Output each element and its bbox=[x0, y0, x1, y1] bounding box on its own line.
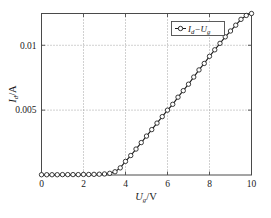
y-axis-title: Id/A bbox=[7, 85, 19, 104]
data-point-marker bbox=[249, 11, 253, 15]
data-point-marker bbox=[76, 172, 80, 176]
data-point-marker bbox=[239, 17, 243, 21]
x-axis-title: Ug/V bbox=[135, 191, 157, 203]
svg-text:Id/A: Id/A bbox=[7, 85, 19, 104]
legend-circle-marker-icon bbox=[178, 26, 182, 30]
data-point-marker bbox=[144, 134, 148, 138]
chart-figure: 0246810 0.0050.01 Ug/V Id/A Id−Ug bbox=[0, 0, 271, 218]
data-point-marker bbox=[192, 75, 196, 79]
data-point-marker bbox=[60, 172, 64, 176]
transfer-characteristic-plot: 0246810 0.0050.01 Ug/V Id/A Id−Ug bbox=[0, 0, 271, 218]
data-point-marker bbox=[202, 61, 206, 65]
data-point-marker bbox=[155, 121, 159, 125]
data-point-marker bbox=[160, 114, 164, 118]
data-point-marker bbox=[113, 170, 117, 174]
data-point-marker bbox=[118, 166, 122, 170]
data-point-marker bbox=[207, 54, 211, 58]
data-point-marker bbox=[123, 159, 127, 163]
legend-label-sub-2: g bbox=[207, 28, 211, 35]
x-tick-label: 2 bbox=[81, 179, 86, 189]
x-axis-title-unit: /V bbox=[146, 191, 157, 202]
data-point-marker bbox=[234, 23, 238, 27]
data-point-marker bbox=[45, 173, 49, 177]
data-point-marker bbox=[165, 108, 169, 112]
data-point-marker bbox=[81, 172, 85, 176]
data-point-marker bbox=[97, 172, 101, 176]
data-point-marker bbox=[39, 173, 43, 177]
x-tick-label: 6 bbox=[165, 179, 170, 189]
data-point-marker bbox=[244, 13, 248, 17]
y-tick-label: 0.005 bbox=[15, 105, 37, 115]
data-point-marker bbox=[218, 41, 222, 45]
x-tick-label: 0 bbox=[39, 179, 44, 189]
data-point-marker bbox=[55, 173, 59, 177]
data-point-marker bbox=[181, 88, 185, 92]
data-point-marker bbox=[134, 147, 138, 151]
x-tick-label: 4 bbox=[123, 179, 128, 189]
data-point-marker bbox=[129, 153, 133, 157]
data-point-marker bbox=[66, 172, 70, 176]
y-tick-label: 0.01 bbox=[20, 41, 37, 51]
data-point-marker bbox=[171, 102, 175, 106]
data-point-marker bbox=[228, 29, 232, 33]
data-point-marker bbox=[50, 173, 54, 177]
svg-text:Ug/V: Ug/V bbox=[135, 191, 157, 203]
data-point-marker bbox=[108, 171, 112, 175]
data-point-marker bbox=[87, 172, 91, 176]
data-point-marker bbox=[139, 140, 143, 144]
y-axis-title-unit: /A bbox=[7, 85, 18, 96]
data-point-marker bbox=[92, 172, 96, 176]
data-point-marker bbox=[213, 48, 217, 52]
data-point-marker bbox=[150, 127, 154, 131]
data-point-marker bbox=[197, 68, 201, 72]
legend[interactable]: Id−Ug bbox=[172, 22, 225, 36]
x-tick-label: 10 bbox=[247, 179, 257, 189]
x-tick-label: 8 bbox=[207, 179, 212, 189]
data-point-marker bbox=[71, 172, 75, 176]
data-point-marker bbox=[102, 172, 106, 176]
data-point-marker bbox=[186, 82, 190, 86]
data-point-marker bbox=[176, 95, 180, 99]
